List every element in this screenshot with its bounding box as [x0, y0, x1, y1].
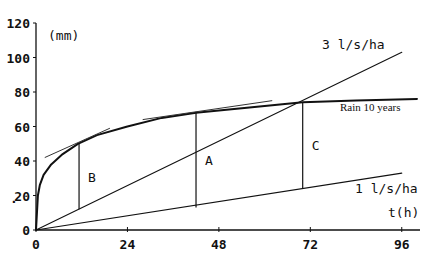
x-tick-label: 0 [32, 237, 40, 252]
series-lines [36, 52, 417, 230]
y-tick-label: 60 [14, 120, 30, 135]
x-tick-label: 48 [211, 237, 227, 252]
series-rain-10-years [36, 99, 417, 230]
y-axis-unit-label: (mm) [48, 28, 79, 43]
annotations: BAC [79, 102, 319, 209]
annotation-label-a: A [205, 153, 213, 168]
x-tick-label: 24 [120, 237, 136, 252]
y-tick-label: 120 [7, 16, 31, 31]
x-tick-label: 72 [302, 237, 318, 252]
tangent-near-b [45, 128, 110, 157]
annotation-label-c: C [312, 138, 320, 153]
x-tick-label: 96 [394, 237, 410, 252]
series-label-1lsha: 1 l/s/ha [355, 181, 418, 196]
y-tick-label: 40 [14, 154, 30, 169]
y-tick-label: 80 [14, 85, 30, 100]
x-axis-unit-label: t(h) [388, 205, 419, 220]
stray-mark: . [10, 191, 18, 206]
y-tick-label: 100 [7, 51, 31, 66]
series-label-rain: Rain 10 years [340, 101, 400, 113]
annotation-label-b: B [88, 170, 96, 185]
tangent-near-a [143, 101, 273, 120]
axes [36, 23, 420, 230]
series-label-3lsha: 3 l/s/ha [322, 37, 385, 52]
rainfall-storage-chart: 020406080100120024487296 BAC (mm) t(h) 3… [0, 0, 430, 268]
series-3-l-s-ha [36, 52, 402, 230]
y-tick-label: 0 [22, 223, 30, 238]
